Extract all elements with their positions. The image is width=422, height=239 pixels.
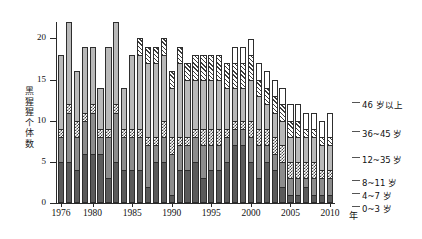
legend-item-12-35: 12~35 岁 bbox=[362, 153, 402, 165]
bar-segment bbox=[232, 47, 238, 63]
x-tick-mark bbox=[330, 203, 331, 207]
bar-segment bbox=[200, 55, 206, 80]
bar-segment bbox=[303, 113, 309, 129]
bar-segment bbox=[279, 145, 285, 161]
bar-segment bbox=[82, 113, 88, 121]
bar-segment bbox=[287, 121, 293, 137]
bar-stack bbox=[121, 88, 127, 203]
bar-segment bbox=[192, 129, 198, 137]
bar-segment bbox=[256, 80, 262, 96]
bar-segment bbox=[303, 187, 309, 203]
bar-segment bbox=[184, 145, 190, 170]
bar-segment bbox=[256, 63, 262, 79]
bar-stack bbox=[272, 80, 278, 203]
bar-segment bbox=[208, 129, 214, 145]
bar-stack bbox=[319, 121, 325, 203]
bar-segment bbox=[169, 137, 175, 153]
bar-segment bbox=[224, 63, 230, 88]
x-tick-mark bbox=[172, 203, 173, 207]
x-tick-mark bbox=[211, 203, 212, 207]
legend-leader-line bbox=[352, 180, 360, 181]
bar-stack bbox=[145, 47, 151, 203]
bar-segment bbox=[303, 129, 309, 137]
bar-segment bbox=[97, 154, 103, 203]
bar-stack bbox=[97, 88, 103, 203]
legend: 46 岁以上36~45 岁12~35 岁8~11 岁4~7 岁0~3 岁 bbox=[352, 0, 422, 239]
y-tick-label: 5 bbox=[14, 156, 46, 166]
bar-segment bbox=[287, 137, 293, 162]
bar-segment bbox=[319, 121, 325, 137]
bar-segment bbox=[184, 63, 190, 79]
bar-segment bbox=[216, 80, 222, 129]
bar-segment bbox=[153, 162, 159, 203]
bar-segment bbox=[58, 55, 64, 129]
bar-segment bbox=[97, 129, 103, 137]
bar-segment bbox=[256, 129, 262, 145]
bar-stack bbox=[153, 47, 159, 203]
bar-stack bbox=[184, 63, 190, 203]
bar-segment bbox=[319, 170, 325, 178]
bar-segment bbox=[90, 113, 96, 154]
x-tick-mark bbox=[251, 203, 252, 207]
bar-segment bbox=[177, 63, 183, 137]
bar-segment bbox=[295, 121, 301, 137]
bar-segment bbox=[256, 178, 262, 203]
bar-segment bbox=[272, 137, 278, 153]
x-tick-label: 1990 bbox=[152, 208, 192, 218]
bar-segment bbox=[303, 137, 309, 162]
bar-segment bbox=[58, 162, 64, 203]
bar-segment bbox=[303, 162, 309, 178]
bar-segment bbox=[153, 137, 159, 145]
bar-segment bbox=[192, 55, 198, 80]
bar-segment bbox=[200, 178, 206, 203]
bar-segment bbox=[145, 187, 151, 203]
bar-segment bbox=[121, 129, 127, 137]
bar-stack bbox=[82, 47, 88, 203]
legend-leader-line bbox=[352, 102, 360, 103]
bar-stack bbox=[192, 55, 198, 203]
bar-stack bbox=[113, 22, 119, 203]
legend-item-46plus: 46 岁以上 bbox=[362, 98, 403, 110]
bar-stack bbox=[248, 39, 254, 204]
bar-segment bbox=[137, 129, 143, 137]
bar-stack bbox=[169, 71, 175, 203]
bar-segment bbox=[161, 121, 167, 137]
bar-segment bbox=[311, 162, 317, 178]
bar-segment bbox=[145, 145, 151, 186]
legend-leader-line bbox=[352, 193, 360, 194]
bar-segment bbox=[137, 137, 143, 170]
bar-segment bbox=[256, 145, 262, 178]
bar-segment bbox=[232, 121, 238, 129]
bar-segment bbox=[66, 104, 72, 112]
legend-item-36-45: 36~45 岁 bbox=[362, 127, 402, 139]
bar-segment bbox=[137, 170, 143, 203]
bar-segment bbox=[319, 145, 325, 170]
bar-segment bbox=[287, 178, 293, 194]
bar-segment bbox=[161, 55, 167, 121]
bar-stack bbox=[311, 113, 317, 203]
bar-stack bbox=[295, 104, 301, 203]
bar-segment bbox=[287, 104, 293, 120]
x-tick-mark bbox=[290, 203, 291, 207]
bar-segment bbox=[200, 80, 206, 129]
bar-segment bbox=[105, 178, 111, 203]
bar-segment bbox=[129, 129, 135, 137]
bar-segment bbox=[279, 121, 285, 146]
bar-segment bbox=[105, 129, 111, 137]
bar-stack bbox=[303, 113, 309, 203]
bar-segment bbox=[216, 55, 222, 80]
bar-segment bbox=[311, 137, 317, 162]
bar-segment bbox=[319, 178, 325, 194]
bar-segment bbox=[264, 162, 270, 203]
bar-segment bbox=[264, 129, 270, 145]
bar-stack bbox=[90, 47, 96, 203]
bar-segment bbox=[256, 96, 262, 129]
bar-segment bbox=[129, 55, 135, 129]
bar-segment bbox=[192, 137, 198, 162]
bar-segment bbox=[303, 178, 309, 186]
bar-segment bbox=[58, 137, 64, 162]
bar-segment bbox=[169, 195, 175, 203]
bar-segment bbox=[216, 145, 222, 170]
x-tick-label: 1980 bbox=[73, 208, 113, 218]
bar-stack bbox=[137, 38, 143, 203]
